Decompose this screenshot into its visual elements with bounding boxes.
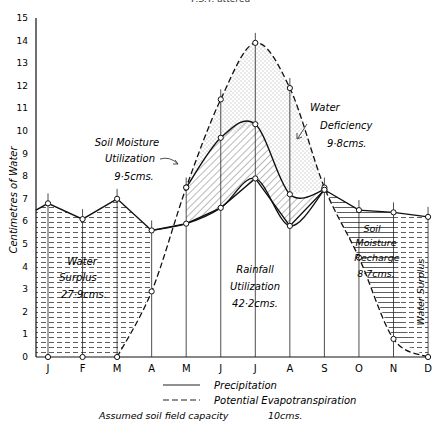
y-axis-label: Centimetres of Water — [8, 146, 19, 254]
pe-point — [115, 354, 120, 359]
shaded-regions — [36, 43, 428, 357]
y-tick-label: 2 — [22, 307, 28, 317]
footnote-label: Assumed soil field capacity — [98, 410, 229, 421]
pe-point — [391, 336, 396, 341]
legend: Precipitation Potential Evapotranspirati… — [163, 380, 356, 406]
svg-text:9·8cms.: 9·8cms. — [327, 138, 367, 149]
water-balance-chart: 0123456789101112131415JFMAMJJASOND Centi… — [0, 0, 442, 422]
x-tick-label: J — [253, 363, 257, 374]
x-tick-label: M — [113, 363, 122, 374]
pe-point — [253, 40, 258, 45]
y-tick-label: 0 — [22, 352, 28, 362]
y-tick-label: 10 — [17, 126, 29, 136]
ae-point — [322, 187, 327, 192]
svg-text:Water: Water — [310, 102, 341, 113]
y-tick-label: 9 — [22, 149, 28, 159]
precipitation-point — [149, 228, 154, 233]
soil-moisture-utilization-label: Soil Moisture Utilization 9·5cms. — [95, 137, 178, 182]
svg-text:Moisture: Moisture — [355, 237, 396, 248]
footnote-value: 10cms. — [268, 410, 303, 421]
svg-text:27·9cms.: 27·9cms. — [61, 289, 107, 300]
x-tick-label: F — [80, 363, 86, 374]
x-tick-label: J — [46, 363, 50, 374]
svg-text:Water: Water — [67, 256, 98, 267]
x-tick-label: A — [286, 363, 293, 374]
y-tick-label: 1 — [22, 329, 28, 339]
precipitation-point — [253, 176, 258, 181]
svg-text:9·5cms.: 9·5cms. — [114, 171, 154, 182]
y-tick-label: 13 — [17, 58, 28, 68]
svg-text:Soil Moisture: Soil Moisture — [95, 137, 159, 148]
y-tick-label: 4 — [22, 262, 28, 272]
ae-point — [218, 135, 223, 140]
svg-text:Utilization: Utilization — [230, 281, 280, 292]
y-tick-label: 7 — [22, 194, 28, 204]
x-tick-label: S — [321, 363, 327, 374]
svg-text:Surplus: Surplus — [59, 272, 96, 283]
svg-text:Recharge: Recharge — [354, 252, 399, 263]
precipitation-point — [391, 210, 396, 215]
pe-point — [218, 97, 223, 102]
ae-point — [287, 192, 292, 197]
x-tick-label: D — [424, 363, 432, 374]
legend-potential-evapotranspiration: Potential Evapotranspiration — [214, 395, 356, 406]
y-tick-label: 15 — [17, 13, 28, 23]
x-tick-label: M — [182, 363, 191, 374]
pe-point — [287, 85, 292, 90]
svg-text:Utilization: Utilization — [105, 153, 155, 164]
water-surplus-dec-label: Water Surplus — [415, 259, 426, 326]
precipitation-point — [184, 221, 189, 226]
pe-point — [80, 354, 85, 359]
y-tick-label: 12 — [17, 81, 28, 91]
legend-precipitation: Precipitation — [214, 380, 277, 391]
precipitation-point — [115, 196, 120, 201]
svg-text:Rainfall: Rainfall — [236, 264, 274, 275]
rainfall-utilization-label: Rainfall Utilization 42·2cms. — [230, 264, 280, 309]
y-tick-label: 3 — [22, 284, 28, 294]
svg-text:8·7cms.: 8·7cms. — [357, 268, 395, 279]
svg-text:Soil: Soil — [363, 223, 380, 234]
x-tick-label: O — [355, 363, 363, 374]
precipitation-point — [80, 217, 85, 222]
x-tick-label: A — [148, 363, 155, 374]
pe-point — [149, 289, 154, 294]
pe-point — [425, 354, 430, 359]
y-tick-label: 5 — [22, 239, 28, 249]
precipitation-point — [218, 205, 223, 210]
precipitation-point — [425, 214, 430, 219]
x-tick-label: N — [390, 363, 397, 374]
pe-point — [45, 354, 50, 359]
precipitation-point — [356, 208, 361, 213]
ae-point — [253, 122, 258, 127]
svg-text:Deficiency: Deficiency — [320, 120, 374, 131]
y-tick-label: 14 — [17, 36, 29, 46]
y-tick-label: 11 — [17, 103, 28, 113]
x-tick-label: J — [218, 363, 222, 374]
precipitation-point — [45, 201, 50, 206]
y-tick-label: 8 — [22, 171, 28, 181]
svg-text:42·2cms.: 42·2cms. — [232, 298, 278, 309]
y-tick-label: 6 — [22, 216, 28, 226]
precipitation-point — [287, 223, 292, 228]
ae-point — [184, 185, 189, 190]
